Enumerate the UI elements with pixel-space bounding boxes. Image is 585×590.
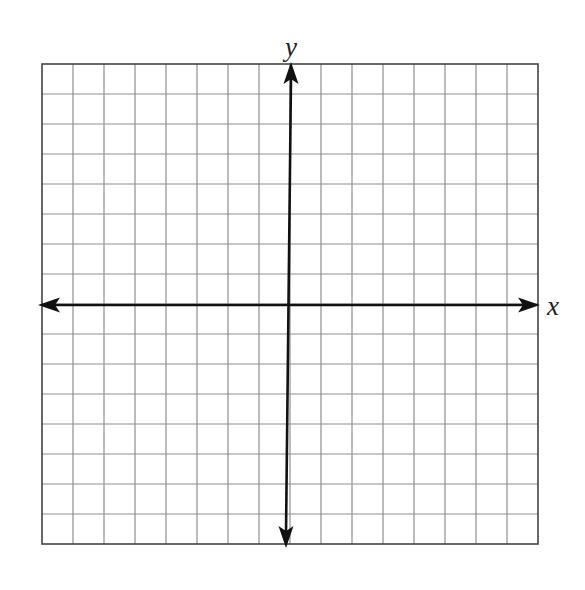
y-axis-label: y bbox=[282, 32, 297, 62]
axes bbox=[38, 62, 540, 548]
x-axis-label: x bbox=[546, 291, 559, 321]
coordinate-grid-diagram: x y bbox=[0, 0, 585, 590]
